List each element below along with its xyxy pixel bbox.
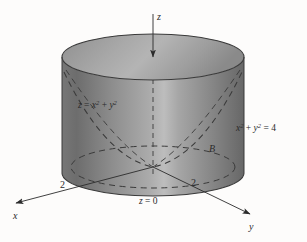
x-tick-label-2: 2 xyxy=(60,179,65,190)
solid-region-label-B: B xyxy=(209,143,215,154)
y-tick-label-2: 2 xyxy=(191,177,196,188)
z-axis-label: z xyxy=(156,11,161,22)
cylinder-plus: + xyxy=(243,123,253,133)
cylinder-eq-sign: = xyxy=(261,123,271,133)
solid-region-diagram: x y z 2 2 z = x2 + y2 x2 + y2 = 4 B z = … xyxy=(0,0,307,242)
plane-equation-label: z = 0 xyxy=(138,196,158,206)
y-axis-label: y xyxy=(248,221,254,232)
x-axis-label: x xyxy=(12,210,18,221)
cylinder-rhs: 4 xyxy=(271,123,276,133)
plane-eq-sign: = xyxy=(143,196,153,206)
paraboloid-eq-sign: = xyxy=(82,100,92,110)
figure-container: x y z 2 2 z = x2 + y2 x2 + y2 = 4 B z = … xyxy=(0,0,307,242)
paraboloid-plus: + xyxy=(99,100,109,110)
plane-rhs: 0 xyxy=(153,196,158,206)
